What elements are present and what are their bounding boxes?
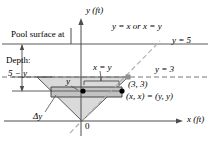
y-axis-arrowhead [78, 18, 83, 25]
delta-y-label: Δy [33, 112, 42, 121]
x-axis-label: x (ft) [187, 115, 204, 124]
depth-arrow-head-up [20, 44, 24, 50]
point-xy-dot [119, 88, 124, 93]
y-axis-label: y (ft) [86, 6, 103, 15]
x-axis-arrowhead [176, 118, 183, 123]
label-point-3-3: (3, 3) [128, 80, 148, 89]
depth-label: Depth: [6, 56, 31, 65]
depth-value-label: 5 − y [8, 69, 27, 78]
figure-canvas: y (ft) Pool surface at y = x or x = y y … [0, 0, 213, 150]
half-width-label: y [66, 77, 70, 86]
diagram-svg [0, 0, 213, 150]
origin-label: 0 [85, 122, 90, 131]
label-point-xy: (x, x) = (y, y) [126, 92, 173, 101]
label-y-equals-3: y = 3 [155, 65, 174, 74]
delta-y-leader [45, 95, 56, 112]
point-center-dot [80, 88, 85, 93]
pool-cross-section-region [37, 77, 128, 121]
label-y-equals-5: y = 5 [172, 36, 191, 45]
pool-surface-label: Pool surface at [11, 30, 64, 39]
representative-strip-region [51, 87, 122, 97]
label-x-equals-y: x = y [93, 63, 112, 72]
diagonal-label: y = x or x = y [112, 22, 162, 31]
